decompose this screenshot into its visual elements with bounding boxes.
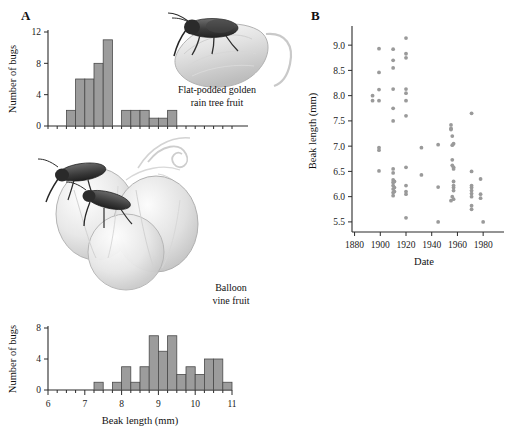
svg-text:Number of bugs: Number of bugs xyxy=(7,45,18,113)
chart-histogram-balloon-vine: 04867891011Number of bugsBeak length (mm… xyxy=(0,318,300,437)
caption-golden-rain-tree: Flat-podded golden rain tree fruit xyxy=(158,84,276,109)
svg-text:1900: 1900 xyxy=(371,240,390,250)
svg-text:4: 4 xyxy=(36,354,41,364)
svg-text:1980: 1980 xyxy=(474,240,493,250)
caption-line-1: Flat-podded golden xyxy=(158,84,276,97)
svg-text:Beak length (mm): Beak length (mm) xyxy=(102,415,179,427)
caption-line-2: vine fruit xyxy=(186,295,276,308)
svg-text:8.5: 8.5 xyxy=(333,66,345,76)
svg-text:4: 4 xyxy=(36,90,41,100)
illustration-balloon-vine-fruit-with-bugs xyxy=(30,128,260,298)
svg-text:8: 8 xyxy=(36,59,41,69)
svg-text:1920: 1920 xyxy=(397,240,416,250)
svg-text:7: 7 xyxy=(82,399,87,409)
svg-text:6: 6 xyxy=(46,399,51,409)
svg-text:10: 10 xyxy=(190,399,200,409)
svg-text:Beak length (mm): Beak length (mm) xyxy=(307,92,319,169)
svg-text:1960: 1960 xyxy=(448,240,467,250)
figure-root: A B 04812Number of bugs 04867891011Numbe… xyxy=(0,0,514,437)
svg-text:12: 12 xyxy=(32,27,42,37)
svg-text:Number of bugs: Number of bugs xyxy=(7,325,18,393)
svg-text:1940: 1940 xyxy=(422,240,441,250)
caption-line-2: rain tree fruit xyxy=(158,97,276,110)
caption-balloon-vine: Balloon vine fruit xyxy=(186,282,276,307)
svg-text:0: 0 xyxy=(36,385,41,395)
svg-text:6.0: 6.0 xyxy=(333,192,345,202)
svg-text:7.5: 7.5 xyxy=(333,116,345,126)
svg-text:8: 8 xyxy=(36,323,41,333)
svg-text:9.0: 9.0 xyxy=(333,41,345,51)
svg-text:6.5: 6.5 xyxy=(333,167,345,177)
chart-scatter-beak-length-vs-date: 5.56.06.57.07.58.08.59.01880190019201940… xyxy=(300,0,514,290)
svg-text:11: 11 xyxy=(227,399,236,409)
caption-line-1: Balloon xyxy=(186,282,276,295)
svg-text:Date: Date xyxy=(414,256,434,267)
svg-text:9: 9 xyxy=(156,399,161,409)
svg-text:7.0: 7.0 xyxy=(333,142,345,152)
svg-text:8.0: 8.0 xyxy=(333,91,345,101)
svg-text:5.5: 5.5 xyxy=(333,217,345,227)
svg-text:1880: 1880 xyxy=(345,240,364,250)
svg-text:8: 8 xyxy=(119,399,124,409)
